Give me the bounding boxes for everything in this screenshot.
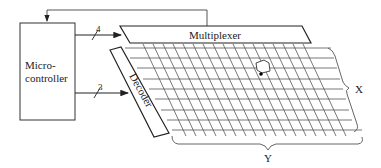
x-dimension-brace <box>328 48 358 132</box>
microcontroller-label-line1: Micro- <box>25 59 68 72</box>
x-dimension-label: X <box>355 83 363 95</box>
y-dimension-label: Y <box>264 152 272 164</box>
y-dimension-brace <box>172 136 363 150</box>
multiplexer-label: Multiplexer <box>189 29 241 41</box>
microcontroller-label: Micro- controller <box>25 59 68 85</box>
key-switch-cell <box>256 60 270 73</box>
key-contact-dot <box>259 72 263 76</box>
feedback-line <box>47 10 207 26</box>
bus-width-label-3: 3 <box>98 82 103 92</box>
microcontroller-label-line2: controller <box>25 72 68 85</box>
bus-width-label-4: 4 <box>96 24 101 34</box>
